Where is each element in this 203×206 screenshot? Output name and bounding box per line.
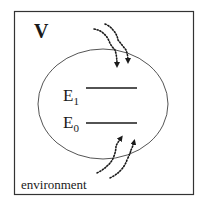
volume-label: V xyxy=(34,20,49,42)
system-environment-diagram: V E1 E0 environment xyxy=(0,0,203,206)
system-ellipse xyxy=(38,49,168,159)
incoming-arrow-1-icon xyxy=(94,29,117,65)
incoming-photon-arrows xyxy=(94,24,128,65)
environment-label: environment xyxy=(21,177,87,192)
outgoing-arrow-1-icon xyxy=(97,138,121,173)
energy-level-e0: E0 xyxy=(63,113,137,134)
outgoing-arrow-2-icon xyxy=(110,142,134,178)
level-e1-label: E1 xyxy=(63,86,79,107)
level-e0-label: E0 xyxy=(63,113,79,134)
energy-level-e1: E1 xyxy=(63,86,137,107)
